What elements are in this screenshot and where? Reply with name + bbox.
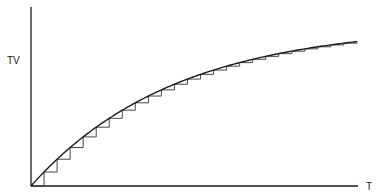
- staircase: [31, 42, 357, 186]
- chart: TV T: [0, 0, 381, 194]
- y-axis-label: TV: [7, 55, 20, 66]
- x-axis-label: T: [366, 181, 372, 192]
- saturation-curve: [31, 42, 357, 186]
